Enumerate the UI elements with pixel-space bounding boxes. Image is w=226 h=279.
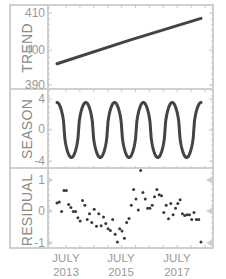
season-tick-0: 0 — [38, 122, 45, 136]
residual-point — [67, 203, 70, 206]
residual-point — [111, 218, 114, 221]
residual-point — [65, 189, 68, 192]
season-panel-title: SEASON — [19, 99, 35, 159]
decomposition-chart: TREND SEASON RESIDUAL 410 400 390 4 0 -4… — [0, 0, 226, 279]
x-tick-2013-month: JULY — [52, 252, 80, 264]
season-tick-4: 4 — [38, 92, 45, 106]
residual-point — [95, 225, 98, 228]
residual-panel-title: RESIDUAL — [19, 174, 35, 246]
residual-point — [174, 207, 177, 210]
residual-tick-marker — [206, 207, 213, 215]
x-tick-2017-year: 2017 — [164, 266, 190, 278]
residual-point — [132, 188, 135, 191]
residual-point — [141, 191, 144, 194]
trend-tick-410: 410 — [25, 6, 45, 20]
residual-point — [162, 211, 165, 214]
residual-point — [172, 213, 175, 216]
residual-point — [148, 207, 151, 210]
residual-point — [83, 204, 86, 207]
residual-point — [139, 169, 142, 172]
residual-point — [97, 212, 100, 215]
season-line — [57, 103, 201, 158]
residual-point — [104, 222, 107, 225]
residual-point — [190, 218, 193, 221]
residual-point — [155, 188, 158, 191]
residual-point — [181, 212, 184, 215]
residual-point — [69, 206, 72, 209]
residual-point — [167, 217, 170, 220]
residual-point — [197, 218, 200, 221]
residual-point — [125, 221, 128, 224]
residual-point — [102, 215, 105, 218]
residual-tick-marker — [48, 177, 53, 183]
residual-point — [123, 237, 126, 240]
residual-point — [121, 230, 124, 233]
x-tick-2013-year: 2013 — [53, 266, 79, 278]
residual-tick--1: -1 — [34, 236, 45, 250]
residual-point — [76, 216, 79, 219]
x-tick-2015-year: 2015 — [108, 266, 134, 278]
residual-point — [179, 198, 182, 201]
residual-point — [116, 241, 119, 244]
season-tick--4: -4 — [34, 154, 45, 168]
residual-point — [135, 197, 138, 200]
residual-point — [90, 221, 93, 224]
residual-point — [160, 194, 163, 197]
residual-point — [114, 233, 117, 236]
residual-point — [86, 218, 89, 221]
residual-tick-marker — [48, 240, 53, 246]
residual-tick-marker — [48, 208, 53, 214]
trend-tick-400: 400 — [25, 43, 45, 57]
residual-point — [130, 204, 133, 207]
residual-point — [176, 202, 179, 205]
residual-point — [151, 204, 154, 207]
trend-line — [57, 18, 201, 63]
residual-point — [153, 195, 156, 198]
residual-point — [128, 217, 131, 220]
residual-point — [81, 199, 84, 202]
residual-tick-1: 1 — [38, 173, 45, 187]
residual-tick-marker — [206, 239, 213, 247]
residual-point — [118, 227, 121, 230]
x-tick-2015-month: JULY — [107, 252, 135, 264]
residual-point — [60, 210, 63, 213]
residual-tick-0: 0 — [38, 204, 45, 218]
residual-points — [56, 169, 203, 244]
residual-point — [169, 202, 172, 205]
residual-point — [100, 224, 103, 227]
residual-point — [137, 208, 140, 211]
residual-point — [79, 219, 82, 222]
residual-tick-marker — [206, 176, 213, 184]
residual-point — [58, 201, 61, 204]
residual-point — [193, 211, 196, 214]
residual-point — [93, 208, 96, 211]
residual-point — [109, 229, 112, 232]
x-tick-2017-month: JULY — [163, 252, 191, 264]
residual-point — [165, 204, 168, 207]
residual-point — [200, 241, 203, 244]
residual-point — [88, 212, 91, 215]
trend-tick-390: 390 — [25, 78, 45, 92]
residual-point — [144, 197, 147, 200]
residual-point — [188, 213, 191, 216]
residual-point — [74, 210, 77, 213]
